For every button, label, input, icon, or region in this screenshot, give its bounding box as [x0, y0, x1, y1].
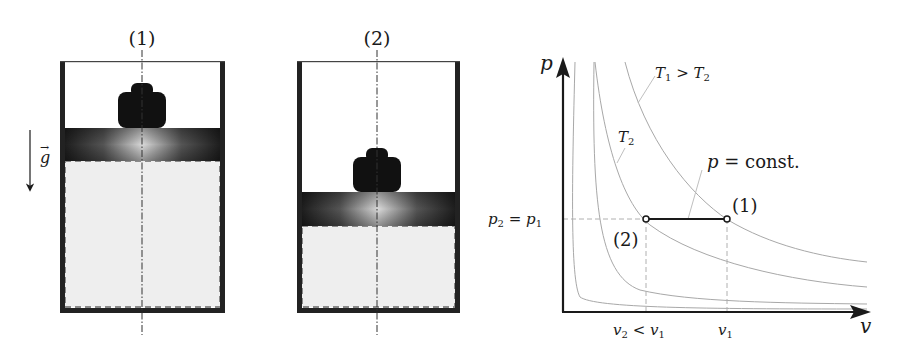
isotherm-innermost — [573, 62, 867, 309]
process-label: p = const. — [707, 151, 800, 172]
isotherm-T2-label: T2 — [618, 128, 634, 147]
figure: (1) g → (2) — [0, 0, 898, 361]
vector-arrow-accent: → — [40, 141, 49, 154]
v2-tick-label: v2 < v1 — [613, 321, 665, 340]
isotherms — [573, 62, 867, 309]
isotherm-low — [594, 62, 867, 304]
state-1-point — [724, 216, 730, 222]
pv-diagram: p v p2 = p1 v2 < v1 v1 T1 > T2 T2 p = co… — [488, 51, 872, 340]
piston-2 — [302, 192, 455, 226]
guide-lines — [563, 219, 727, 312]
cylinder-1: (1) — [60, 27, 225, 335]
isotherm-T1-label: T1 > T2 — [655, 64, 710, 83]
cylinder-2-label: (2) — [364, 27, 391, 49]
cylinder-1-label: (1) — [129, 27, 156, 49]
v1-tick-label: v1 — [718, 321, 733, 340]
x-axis-label: v — [860, 314, 872, 338]
p-tick-label: p2 = p1 — [488, 210, 542, 229]
state-2-label: (2) — [613, 229, 639, 250]
gas-region-2 — [302, 226, 455, 307]
gravity-vector: g → — [30, 130, 50, 190]
y-axis-label: p — [540, 51, 553, 75]
state-1-label: (1) — [732, 195, 758, 216]
leader-lines — [617, 76, 702, 219]
state-2-point — [643, 216, 649, 222]
cylinder-2: (2) — [297, 27, 460, 335]
